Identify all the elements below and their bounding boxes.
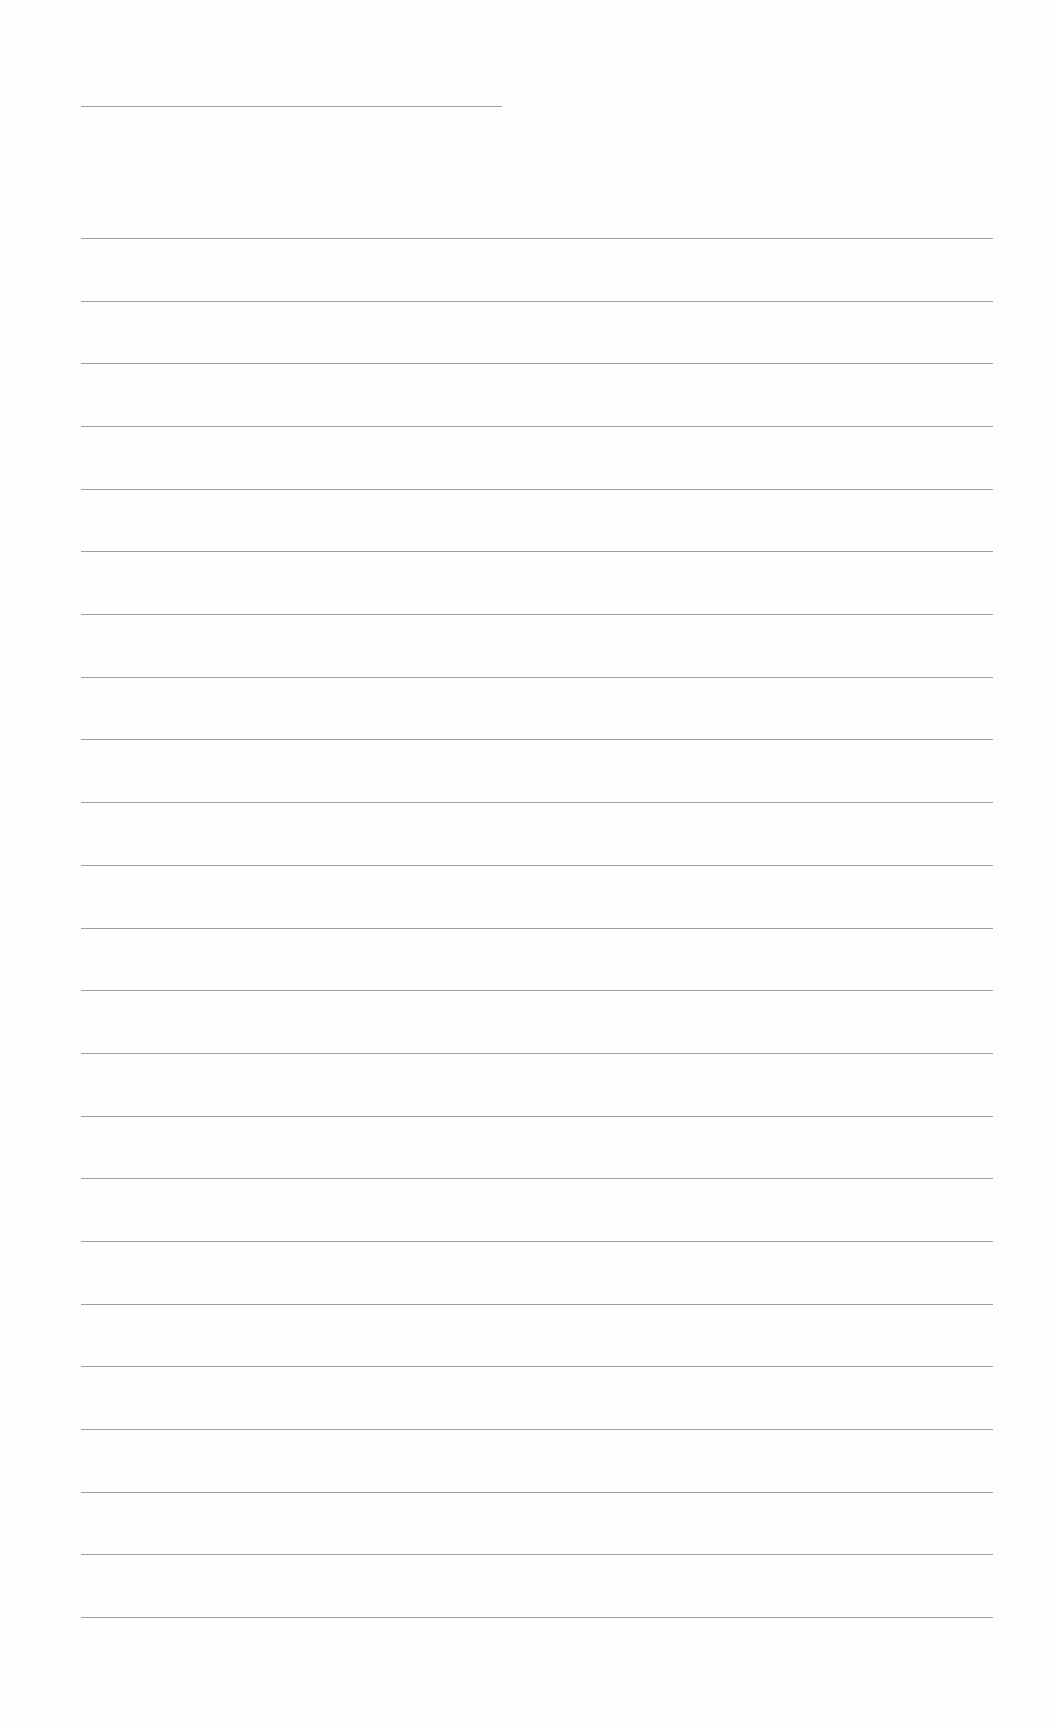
- lined-paper-page: [0, 0, 1053, 1728]
- ruled-line: [81, 1178, 993, 1179]
- ruled-line: [81, 1053, 993, 1054]
- ruled-line: [81, 1492, 993, 1493]
- ruled-line: [81, 363, 993, 364]
- ruled-line: [81, 677, 993, 678]
- ruled-line: [81, 990, 993, 991]
- ruled-line: [81, 1304, 993, 1305]
- ruled-line: [81, 1241, 993, 1242]
- ruled-line: [81, 1366, 993, 1367]
- ruled-line: [81, 802, 993, 803]
- ruled-line: [81, 865, 993, 866]
- ruled-line: [81, 1116, 993, 1117]
- ruled-line: [81, 1429, 993, 1430]
- ruled-line: [81, 928, 993, 929]
- ruled-line: [81, 1617, 993, 1618]
- ruled-line: [81, 614, 993, 615]
- ruled-line: [81, 426, 993, 427]
- ruled-line: [81, 551, 993, 552]
- ruled-line: [81, 1554, 993, 1555]
- ruled-line: [81, 489, 993, 490]
- ruled-line: [81, 301, 993, 302]
- ruled-line: [81, 238, 993, 239]
- header-rule-line: [81, 106, 502, 107]
- ruled-line: [81, 739, 993, 740]
